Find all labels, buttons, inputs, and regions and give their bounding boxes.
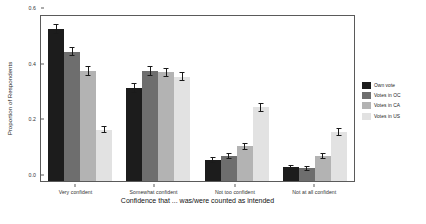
- error-bar-cap-bottom: [180, 80, 185, 81]
- bar[interactable]: [126, 88, 142, 181]
- x-axis-tick-mark: [234, 184, 235, 187]
- bar-slot: [80, 16, 96, 181]
- bar-slot: [142, 16, 158, 181]
- error-bar-cap-top: [148, 66, 153, 67]
- error-bar: [320, 153, 325, 160]
- bar-slot: [158, 16, 174, 181]
- error-bar-cap-bottom: [288, 169, 293, 170]
- x-axis-tick-label: Not at all confident: [292, 184, 336, 196]
- error-bar-cap-top: [258, 103, 263, 104]
- bar[interactable]: [80, 71, 96, 181]
- bar-slot: [64, 16, 80, 181]
- error-bar: [242, 143, 247, 150]
- y-axis-tick: 0.4: [28, 61, 41, 67]
- error-bar-cap-top: [54, 24, 59, 25]
- bar-slot: [237, 16, 253, 181]
- bar[interactable]: [48, 29, 64, 181]
- x-axis-tick-mark: [75, 184, 76, 187]
- error-bar-cap-bottom: [148, 75, 153, 76]
- legend-swatch: [362, 82, 371, 89]
- error-bar-cap-bottom: [242, 149, 247, 150]
- error-bar: [70, 47, 75, 56]
- bar[interactable]: [96, 130, 112, 181]
- bar[interactable]: [174, 77, 190, 181]
- bar-slot: [299, 16, 315, 181]
- error-bar-cap-bottom: [86, 75, 91, 76]
- legend-swatch: [362, 113, 371, 120]
- legend-label: Votes in OC: [374, 93, 401, 98]
- y-axis-tick-mark: [41, 8, 44, 9]
- error-bar-cap-top: [102, 126, 107, 127]
- error-bar-cap-bottom: [54, 33, 59, 34]
- error-bar: [226, 153, 231, 160]
- error-bar-cap-top: [70, 47, 75, 48]
- bar[interactable]: [331, 132, 347, 181]
- legend-swatch: [362, 92, 371, 99]
- error-bar-cap-top: [304, 166, 309, 167]
- x-axis-tick-label: Very confident: [59, 184, 93, 196]
- y-axis-tick: 0.6: [28, 5, 41, 11]
- y-axis-tick: 0.2: [28, 116, 41, 122]
- error-bar-cap-bottom: [210, 162, 215, 163]
- bar-groups: [41, 16, 354, 181]
- legend-label: Own vote: [374, 83, 395, 88]
- y-axis-title-text: Proportion of Respondents: [7, 62, 14, 136]
- bar[interactable]: [315, 156, 331, 181]
- error-bar-cap-bottom: [336, 135, 341, 136]
- error-bar: [148, 66, 153, 75]
- bar-slot: [283, 16, 299, 181]
- bar[interactable]: [64, 52, 80, 181]
- bar[interactable]: [158, 72, 174, 181]
- x-axis-title: Confidence that ... was/were counted as …: [40, 197, 355, 204]
- error-bar-cap-top: [288, 165, 293, 166]
- bar-slot: [315, 16, 331, 181]
- bar[interactable]: [237, 146, 253, 181]
- error-bar-cap-top: [226, 153, 231, 154]
- error-bar-cap-bottom: [70, 55, 75, 56]
- bar[interactable]: [221, 156, 237, 181]
- legend-item[interactable]: Votes in US: [362, 113, 401, 120]
- error-bar-cap-bottom: [304, 170, 309, 171]
- error-bar-cap-bottom: [132, 92, 137, 93]
- bar-slot: [96, 16, 112, 181]
- legend-label: Votes in US: [374, 114, 400, 119]
- error-bar-cap-top: [320, 153, 325, 154]
- error-bar-cap-bottom: [164, 76, 169, 77]
- legend-label: Votes in CA: [374, 103, 400, 108]
- error-bar-cap-bottom: [258, 111, 263, 112]
- legend-item[interactable]: Votes in CA: [362, 102, 401, 109]
- bar[interactable]: [253, 107, 269, 181]
- error-bar: [132, 83, 137, 92]
- bar-group: [283, 16, 347, 181]
- y-axis-tick: 0.0: [28, 172, 41, 178]
- error-bar-cap-top: [180, 72, 185, 73]
- error-bar-cap-top: [164, 68, 169, 69]
- error-bar: [86, 66, 91, 76]
- bar-slot: [174, 16, 190, 181]
- bar-slot: [253, 16, 269, 181]
- error-bar-cap-top: [336, 128, 341, 129]
- bar-group: [205, 16, 269, 181]
- bar-group: [126, 16, 190, 181]
- chart-figure: Proportion of Respondents 0.00.20.40.6 V…: [0, 0, 426, 224]
- bar[interactable]: [142, 71, 158, 181]
- legend-swatch: [362, 102, 371, 109]
- error-bar-cap-top: [210, 157, 215, 158]
- error-bar-cap-bottom: [226, 158, 231, 159]
- error-bar: [210, 157, 215, 164]
- error-bar-cap-bottom: [102, 132, 107, 133]
- bar-slot: [126, 16, 142, 181]
- legend-item[interactable]: Votes in OC: [362, 92, 401, 99]
- error-bar-cap-top: [132, 83, 137, 84]
- error-bar-cap-top: [242, 143, 247, 144]
- legend-item[interactable]: Own vote: [362, 82, 401, 89]
- x-axis-tick-mark: [314, 184, 315, 187]
- error-bar: [288, 165, 293, 170]
- x-axis-tick-label: Somewhat confident: [130, 184, 178, 196]
- error-bar-cap-top: [86, 66, 91, 67]
- bar-group: [48, 16, 112, 181]
- x-axis-tick-label: Not too confident: [215, 184, 255, 196]
- bar-slot: [221, 16, 237, 181]
- y-axis-title: Proportion of Respondents: [4, 15, 16, 182]
- plot-area: 0.00.20.40.6: [40, 15, 355, 182]
